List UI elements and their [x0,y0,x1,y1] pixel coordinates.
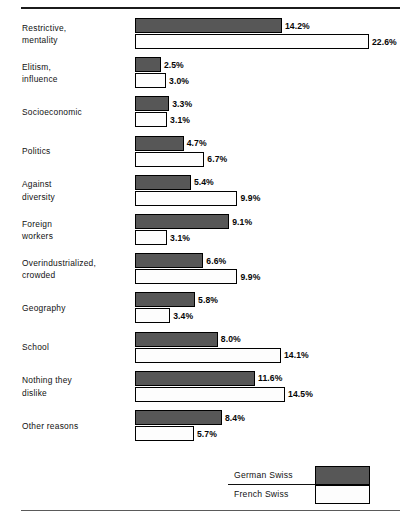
bar-value-label: 5.7% [197,429,217,439]
bar-french-swiss [135,426,194,441]
category-label: Nothing theydislike [22,371,130,403]
bar-group: 4.7%6.7% [135,136,420,168]
bar-group: 2.5%3.0% [135,57,420,89]
bar-french-swiss [135,112,167,127]
category-label-line: influence [22,73,130,85]
category-label: School [22,332,130,364]
bar-group: 6.6%9.9% [135,253,420,285]
bar-german-swiss [135,410,222,425]
bar-group: 11.6%14.5% [135,371,420,403]
bar-french-swiss [135,348,281,363]
category-label: Elitism,influence [22,57,130,89]
category-label-line: Overindustrialized, [22,257,130,269]
bar-german-swiss [135,292,195,307]
bar-german-swiss [135,96,169,111]
bar-value-label: 6.7% [207,154,227,164]
bar-group: 8.0%14.1% [135,332,420,364]
bar-value-label: 3.1% [170,115,190,125]
bar-german-swiss [135,332,218,347]
top-divider-rule [21,7,400,9]
category-label: Againstdiversity [22,175,130,207]
bar-value-label: 14.1% [284,350,309,360]
category-label: Politics [22,136,130,168]
bar-group: 8.4%5.7% [135,410,420,442]
chart-row: Elitism,influence2.5%3.0% [0,57,420,89]
category-label-line: Elitism, [22,61,130,73]
bar-french-swiss [135,387,285,402]
bar-german-swiss [135,18,282,33]
category-label-line: Politics [22,145,130,157]
category-label-line: School [22,341,130,353]
chart-row: Geography5.8%3.4% [0,292,420,324]
legend-label: German Swiss [234,466,293,485]
bar-value-label: 2.5% [164,60,184,70]
chart-row: Againstdiversity5.4%9.9% [0,175,420,207]
legend-label: French Swiss [234,485,289,504]
bar-value-label: 14.5% [288,389,313,399]
bar-french-swiss [135,152,204,167]
bar-german-swiss [135,214,229,229]
category-label-line: workers [22,230,130,242]
category-label-line: Restrictive, [22,22,130,34]
category-label: Socioeconomic [22,96,130,128]
bar-group: 3.3%3.1% [135,96,420,128]
chart-legend: German SwissFrench Swiss [232,466,372,505]
category-label: Restrictive,mentality [22,18,130,50]
bar-german-swiss [135,136,184,151]
category-label-line: Socioeconomic [22,106,130,118]
chart-row: School8.0%14.1% [0,332,420,364]
bar-value-label: 9.9% [240,272,260,282]
category-label-line: dislike [22,387,130,399]
bar-value-label: 11.6% [258,373,282,383]
bar-value-label: 3.0% [169,76,189,86]
bar-value-label: 3.3% [172,99,192,109]
category-label-line: Nothing they [22,374,130,386]
bar-french-swiss [135,308,170,323]
bar-german-swiss [135,253,203,268]
bottom-divider-rule [21,510,400,511]
category-label: Geography [22,292,130,324]
bar-group: 5.8%3.4% [135,292,420,324]
bar-value-label: 8.0% [221,334,241,344]
category-label-line: Other reasons [22,420,130,432]
bar-french-swiss [135,34,369,49]
bar-group: 5.4%9.9% [135,175,420,207]
legend-item: German Swiss [232,466,372,485]
category-label: Foreignworkers [22,214,130,246]
chart-row: Overindustrialized,crowded6.6%9.9% [0,253,420,285]
bar-french-swiss [135,73,166,88]
bar-value-label: 14.2% [285,21,310,31]
category-label-line: Geography [22,302,130,314]
bar-german-swiss [135,57,161,72]
legend-swatch-french-swiss [315,485,370,504]
bar-french-swiss [135,191,237,206]
bar-value-label: 22.6% [372,37,397,47]
chart-row: Socioeconomic3.3%3.1% [0,96,420,128]
category-label: Other reasons [22,410,130,442]
chart-row: Politics4.7%6.7% [0,136,420,168]
bar-value-label: 4.7% [187,138,207,148]
category-label-line: Foreign [22,218,130,230]
bar-value-label: 3.4% [173,311,193,321]
chart-row: Other reasons8.4%5.7% [0,410,420,442]
bar-german-swiss [135,371,255,386]
category-label-line: crowded [22,269,130,281]
bar-value-label: 3.1% [170,233,190,243]
category-label-line: mentality [22,34,130,46]
bar-value-label: 5.4% [194,177,214,187]
bar-value-label: 8.4% [225,413,245,423]
bar-value-label: 9.9% [240,193,260,203]
bar-french-swiss [135,269,237,284]
legend-swatch-german-swiss [315,466,370,485]
bar-value-label: 6.6% [206,256,226,266]
bar-value-label: 5.8% [198,295,218,305]
bar-chart: Restrictive,mentality14.2%22.6%Elitism,i… [0,0,420,529]
chart-row: Nothing theydislike11.6%14.5% [0,371,420,403]
bar-group: 14.2%22.6% [135,18,420,50]
category-label: Overindustrialized,crowded [22,253,130,285]
category-label-line: diversity [22,191,130,203]
chart-row: Foreignworkers9.1%3.1% [0,214,420,246]
bar-value-label: 9.1% [232,217,252,227]
bar-french-swiss [135,230,167,245]
legend-item: French Swiss [232,485,372,504]
